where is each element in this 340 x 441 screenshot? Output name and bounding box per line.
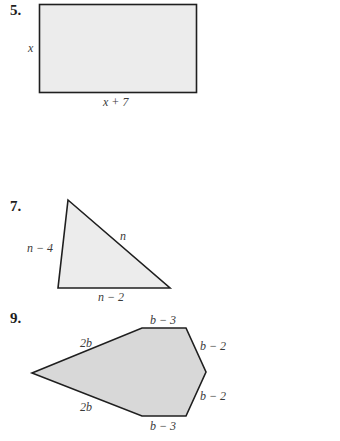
triangle-hypotenuse-label: n xyxy=(120,230,126,242)
hexagon-shape xyxy=(32,328,206,416)
rectangle-left-label: x xyxy=(28,42,33,54)
triangle-bottom-label: n − 2 xyxy=(98,291,124,303)
rectangle-bottom-label: x + 7 xyxy=(103,96,128,108)
problem-number-7: 7. xyxy=(10,199,21,214)
problem-number-5: 5. xyxy=(10,3,21,18)
triangle-left-label: n − 4 xyxy=(27,242,53,254)
hexagon-lower-right-label: b − 2 xyxy=(200,390,226,402)
problem-number-9: 9. xyxy=(10,311,21,326)
hexagon-upper-left-label: 2b xyxy=(80,337,92,349)
geometry-exercises: 5. x x + 7 7. n − 4 n n − 2 9. 2b b − 3 … xyxy=(0,0,340,441)
hexagon-lower-left-label: 2b xyxy=(80,401,92,413)
hexagon-top-label: b − 3 xyxy=(150,314,176,326)
rectangle-shape xyxy=(40,5,197,93)
hexagon-upper-right-label: b − 2 xyxy=(200,340,226,352)
hexagon-bottom-label: b − 3 xyxy=(150,420,176,432)
shapes-layer xyxy=(0,0,340,441)
triangle-shape xyxy=(58,200,170,288)
